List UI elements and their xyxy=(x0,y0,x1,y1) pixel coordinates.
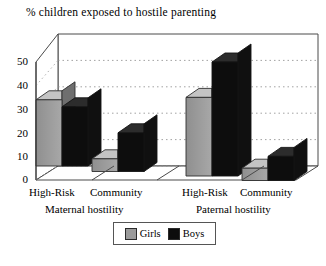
x-label-maternal-highrisk: High-Risk xyxy=(29,186,75,198)
y-tick-40: 40 xyxy=(8,80,28,91)
x-label-maternal-community: Community xyxy=(90,186,143,198)
x-label-paternal-highrisk: High-Risk xyxy=(182,186,228,198)
y-tick-50: 50 xyxy=(8,56,28,67)
legend-item-girls[interactable]: Girls xyxy=(125,228,161,240)
legend-label-boys: Boys xyxy=(183,228,205,239)
y-tick-0: 0 xyxy=(8,174,28,185)
y-tick-10: 10 xyxy=(8,151,28,162)
girls-swatch-icon xyxy=(125,228,137,240)
bar-paternal-highrisk-boys xyxy=(212,44,251,176)
legend: Girls Boys xyxy=(113,222,216,245)
y-tick-30: 30 xyxy=(8,104,28,115)
chart-container: % children exposed to hostile parenting xyxy=(0,0,326,266)
group-label-paternal: Paternal hostility xyxy=(196,203,271,215)
y-tick-20: 20 xyxy=(8,128,28,139)
legend-label-girls: Girls xyxy=(140,228,161,239)
legend-item-boys[interactable]: Boys xyxy=(168,228,205,240)
x-label-paternal-community: Community xyxy=(240,186,293,198)
boys-swatch-icon xyxy=(168,228,180,240)
group-label-maternal: Maternal hostility xyxy=(45,203,124,215)
